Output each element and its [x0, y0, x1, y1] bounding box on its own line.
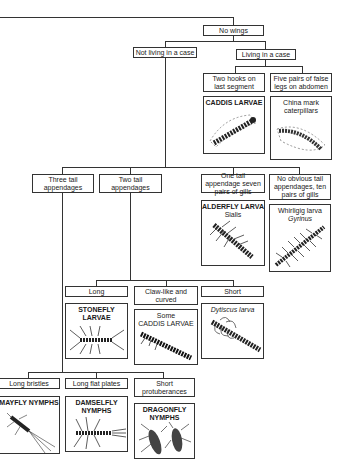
three-tail-appendages-node: Three tail appendages	[32, 174, 94, 193]
species-name: CADDIS LARVAE	[204, 99, 264, 107]
whirligig-larva-icon	[270, 221, 330, 271]
alderfly-larva-icon	[202, 217, 264, 265]
species-name: ALDERFLY LARVA	[202, 203, 264, 211]
species-name: MAYFLY NYMPHS	[0, 399, 59, 407]
long-bristles-node: Long bristles	[0, 378, 60, 389]
connector	[302, 66, 303, 73]
connector	[130, 167, 131, 174]
living-in-case-node: Living in a case	[236, 49, 296, 60]
two-tail-appendages-node: Two tail appendages	[99, 174, 162, 193]
caddis-larvae-card: CADDIS LARVAE	[203, 96, 265, 154]
long-node: Long	[65, 286, 128, 297]
connector	[0, 17, 234, 18]
stonefly-larva-icon	[66, 318, 127, 358]
dytiscus-larva-card: Dytiscus larva	[201, 303, 264, 359]
connector	[62, 167, 300, 168]
connector	[235, 66, 303, 67]
dragonfly-nymph-icon	[135, 420, 194, 458]
two-hooks-node: Two hooks on last segment	[203, 73, 265, 92]
dragonfly-nymphs-card: DRAGONFLY NYMPHS	[134, 403, 195, 459]
stonefly-larvae-card: STONEFLY LARVAE	[65, 303, 128, 359]
short-protuberances-node: Short protuberances	[134, 378, 195, 397]
alderfly-larva-card: ALDERFLY LARVA Sialis	[201, 200, 265, 266]
mayfly-nymph-icon	[0, 407, 59, 453]
no-obvious-tail-node: No obvious tail appendages, ten pairs of…	[269, 174, 331, 200]
five-pairs-false-legs-node: Five pairs of false legs on abdomen	[270, 73, 332, 92]
connector	[165, 41, 266, 42]
claw-like-curved-node: Claw-like and curved	[134, 286, 198, 305]
connector	[130, 192, 131, 280]
whirligig-larva-card: Whirligig larva Gyrinus	[269, 204, 331, 272]
species-name: Whirligig larva	[270, 207, 330, 215]
connector	[265, 41, 266, 49]
one-tail-appendage-node: One tail appendage seven pairs of gills	[201, 174, 265, 193]
long-flat-plates-node: Long flat plates	[65, 378, 128, 389]
china-mark-caterpillars-card: China mark caterpillars	[270, 96, 332, 160]
mayfly-nymphs-card: MAYFLY NYMPHS	[0, 396, 60, 454]
not-living-in-case-node: Not living in a case	[133, 47, 197, 58]
caddis-larva-in-case-icon	[204, 107, 264, 153]
short-node: Short	[201, 286, 264, 297]
damselfly-nymph-icon	[66, 413, 127, 451]
connector	[62, 192, 63, 372]
connector	[235, 66, 236, 73]
connector	[299, 167, 300, 174]
connector	[265, 59, 266, 66]
species-prefix: Some	[135, 312, 197, 320]
species-name: China mark caterpillars	[271, 99, 331, 115]
china-mark-caterpillar-icon	[271, 115, 331, 159]
connector	[96, 280, 234, 281]
connector	[233, 17, 234, 25]
free-living-caddis-larva-icon	[135, 326, 197, 364]
damselfly-nymphs-card: DAMSELFLY NYMPHS	[65, 396, 128, 452]
dytiscus-larva-icon	[202, 312, 263, 358]
no-wings-node: No wings	[203, 25, 264, 36]
connector	[165, 57, 166, 168]
connector	[62, 167, 63, 174]
some-caddis-larvae-card: Some CADDIS LARVAE	[134, 309, 198, 365]
